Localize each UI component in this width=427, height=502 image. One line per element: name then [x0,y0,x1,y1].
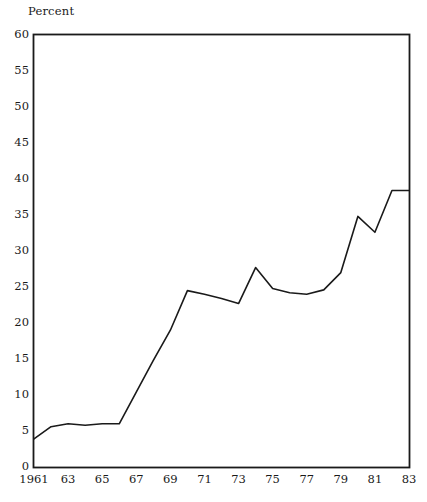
x-axis-tick-label: 81 [368,474,383,486]
x-axis-tick-labels: 19616365676971737577798183 [0,474,427,494]
x-axis-tick-label: 77 [299,474,314,486]
plot-area [0,0,427,502]
x-axis-tick-label: 73 [231,474,246,486]
x-axis-tick-label: 1961 [19,474,48,486]
x-axis-tick-label: 63 [61,474,76,486]
x-axis-tick-label: 75 [265,474,280,486]
x-axis-tick-label: 71 [197,474,212,486]
plot-frame [34,35,410,468]
x-axis-tick-label: 65 [95,474,110,486]
x-axis-tick-label: 69 [163,474,178,486]
x-axis-tick-label: 83 [402,474,417,486]
percent-line-chart: Percent 051015202530354045505560 1961636… [0,0,427,502]
x-axis-tick-label: 79 [333,474,348,486]
x-axis-tick-label: 67 [129,474,144,486]
